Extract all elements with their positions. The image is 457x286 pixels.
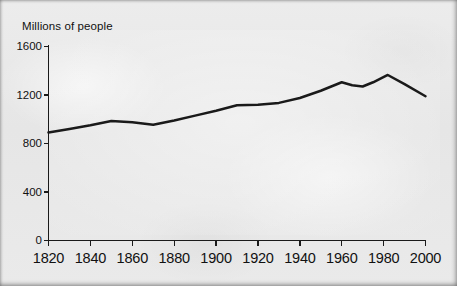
y-tick-label-400: 400 xyxy=(8,186,42,198)
y-tick-label-0: 0 xyxy=(8,234,42,246)
x-tick-label-1940: 1940 xyxy=(277,250,323,266)
y-tick-label-800: 800 xyxy=(8,137,42,149)
x-tick-label-1960: 1960 xyxy=(319,250,365,266)
chart-figure: Millions of people xyxy=(0,0,457,286)
data-line-series-0 xyxy=(49,75,426,133)
y-tick-label-1600: 1600 xyxy=(8,40,42,52)
axes-group xyxy=(44,45,426,246)
x-tick-label-1820: 1820 xyxy=(26,250,72,266)
x-tick-label-1880: 1880 xyxy=(151,250,197,266)
chart-plot-area xyxy=(0,0,457,286)
x-tick-label-1900: 1900 xyxy=(193,250,239,266)
x-tick-label-1980: 1980 xyxy=(361,250,407,266)
y-tick-label-1200: 1200 xyxy=(8,89,42,101)
x-axis-ticks xyxy=(49,241,426,246)
x-tick-label-1920: 1920 xyxy=(235,250,281,266)
x-tick-label-1840: 1840 xyxy=(67,250,113,266)
x-tick-label-1860: 1860 xyxy=(109,250,155,266)
x-tick-label-2000: 2000 xyxy=(403,250,449,266)
